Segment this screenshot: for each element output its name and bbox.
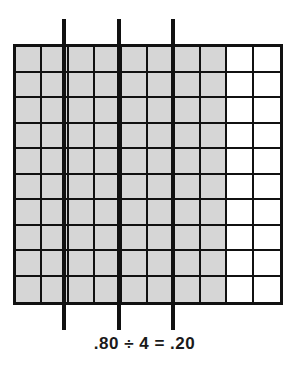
grid-cell: [69, 277, 95, 303]
hundredths-grid: [13, 44, 283, 305]
grid-cell: [16, 98, 42, 124]
grid-cell: [122, 226, 148, 252]
grid-cell: [122, 47, 148, 73]
grid-cell: [174, 251, 200, 277]
grid-cell: [69, 124, 95, 150]
grid-cell: [16, 175, 42, 201]
grid-cell: [174, 149, 200, 175]
grid-cell: [174, 73, 200, 99]
grid-cell: [16, 277, 42, 303]
grid-cell: [122, 98, 148, 124]
grid-cell: [254, 251, 280, 277]
grid-cell: [122, 124, 148, 150]
grid-cell: [122, 251, 148, 277]
grid-cell: [227, 251, 253, 277]
group-divider-3: [171, 19, 175, 330]
grid-cell: [201, 226, 227, 252]
grid-cell: [69, 73, 95, 99]
equation-caption: .80 ÷ 4 = .20: [0, 334, 289, 354]
grid-cell: [227, 47, 253, 73]
grid-cell: [16, 124, 42, 150]
grid-cell: [69, 251, 95, 277]
grid-cell: [174, 277, 200, 303]
grid-cell: [254, 98, 280, 124]
grid-cell: [174, 175, 200, 201]
grid-cell: [201, 73, 227, 99]
grid-cell: [16, 47, 42, 73]
grid-cell: [201, 251, 227, 277]
grid-cell: [227, 124, 253, 150]
grid-cell: [254, 200, 280, 226]
grid-cell: [69, 98, 95, 124]
grid-cell: [174, 124, 200, 150]
grid-cell: [254, 149, 280, 175]
grid-cell: [16, 251, 42, 277]
grid-cell: [227, 277, 253, 303]
grid-cell: [254, 277, 280, 303]
grid-cell: [174, 98, 200, 124]
grid-cell: [69, 200, 95, 226]
grid-cell: [227, 175, 253, 201]
grid-cell: [122, 277, 148, 303]
grid-cell: [201, 47, 227, 73]
grid-cell: [254, 226, 280, 252]
grid-cell: [122, 175, 148, 201]
grid-cell: [227, 200, 253, 226]
grid-cell: [16, 200, 42, 226]
grid-cell: [201, 124, 227, 150]
grid-cell: [227, 73, 253, 99]
grid-cell: [69, 47, 95, 73]
grid-cell: [227, 98, 253, 124]
grid-cell: [122, 73, 148, 99]
grid-cell: [174, 200, 200, 226]
grid-cell: [69, 175, 95, 201]
grid-cell: [174, 226, 200, 252]
grid-cell: [16, 73, 42, 99]
grid-cell: [174, 47, 200, 73]
group-divider-1: [62, 19, 66, 330]
grid-cell: [201, 149, 227, 175]
grid-cell: [254, 47, 280, 73]
grid-cell: [254, 175, 280, 201]
group-divider-2: [117, 19, 121, 330]
grid-cell: [254, 73, 280, 99]
grid-cell: [201, 98, 227, 124]
grid-cell: [227, 226, 253, 252]
grid-cell: [201, 200, 227, 226]
decimal-division-figure: .80 ÷ 4 = .20: [0, 0, 289, 369]
grid-cell: [254, 124, 280, 150]
grid-cell: [16, 226, 42, 252]
grid-cell: [201, 175, 227, 201]
hundredths-grid-area: [13, 44, 283, 305]
grid-cell: [227, 149, 253, 175]
grid-cell: [69, 226, 95, 252]
grid-cell: [122, 149, 148, 175]
grid-cell: [201, 277, 227, 303]
grid-cell: [122, 200, 148, 226]
grid-cell: [16, 149, 42, 175]
grid-cell: [69, 149, 95, 175]
